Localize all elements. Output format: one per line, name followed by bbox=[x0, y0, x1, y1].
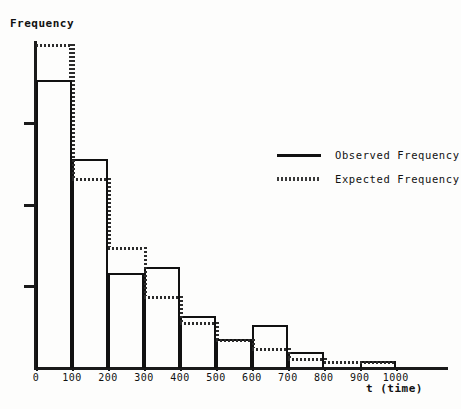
expected-step-riser bbox=[216, 322, 219, 338]
expected-step-riser bbox=[144, 247, 147, 296]
histogram-chart: Frequency t (time) 010020030040050060070… bbox=[0, 0, 461, 409]
legend-item-expected: Expected Frequency bbox=[277, 167, 457, 191]
expected-step-riser bbox=[108, 178, 111, 247]
expected-step-riser bbox=[180, 296, 183, 322]
x-axis-tick-label: 900 bbox=[350, 372, 370, 383]
x-axis-tick-label: 400 bbox=[170, 372, 190, 383]
legend-label-observed: Observed Frequency bbox=[335, 149, 460, 161]
expected-step-riser bbox=[252, 339, 255, 349]
chart-legend: Observed Frequency Expected Frequency bbox=[277, 143, 457, 191]
x-axis-tick-label: 500 bbox=[206, 372, 226, 383]
expected-step-riser bbox=[72, 44, 75, 178]
y-axis-tick bbox=[24, 122, 35, 125]
x-axis-tick-label: 800 bbox=[314, 372, 334, 383]
expected-step-top bbox=[288, 358, 324, 361]
expected-step-riser bbox=[288, 348, 291, 358]
x-axis-tick-label: 100 bbox=[62, 372, 82, 383]
x-axis-tick bbox=[396, 367, 398, 371]
expected-step-top bbox=[144, 296, 180, 299]
y-axis-tick bbox=[24, 285, 35, 288]
x-axis-label: t (time) bbox=[366, 382, 423, 395]
x-axis-tick-label: 600 bbox=[242, 372, 262, 383]
x-axis-tick-label: 200 bbox=[98, 372, 118, 383]
expected-step-top bbox=[180, 322, 216, 325]
x-axis-tick-label: 700 bbox=[278, 372, 298, 383]
y-axis-tick bbox=[24, 204, 35, 207]
expected-step-top bbox=[72, 178, 108, 181]
expected-step-top bbox=[324, 361, 360, 364]
observed-bar bbox=[216, 339, 252, 368]
x-axis-tick bbox=[324, 367, 326, 371]
observed-bar bbox=[144, 267, 180, 368]
x-axis-tick-label: 0 bbox=[33, 372, 40, 383]
expected-step-top bbox=[252, 348, 288, 351]
legend-item-observed: Observed Frequency bbox=[277, 143, 457, 167]
legend-line-dotted-icon bbox=[277, 177, 321, 181]
legend-label-expected: Expected Frequency bbox=[335, 173, 460, 185]
x-axis-tick-label: 1000 bbox=[383, 372, 409, 383]
observed-bar bbox=[252, 325, 288, 368]
expected-step-top bbox=[360, 361, 396, 364]
x-axis-tick-label: 300 bbox=[134, 372, 154, 383]
expected-step-riser bbox=[324, 358, 327, 361]
y-axis-label: Frequency bbox=[10, 17, 74, 30]
observed-bar bbox=[72, 159, 108, 368]
expected-step-top bbox=[108, 247, 144, 250]
expected-step-top bbox=[36, 44, 72, 47]
observed-bar bbox=[108, 273, 144, 368]
expected-step-top bbox=[216, 339, 252, 342]
legend-line-solid-icon bbox=[277, 154, 321, 157]
observed-bar bbox=[36, 80, 72, 368]
